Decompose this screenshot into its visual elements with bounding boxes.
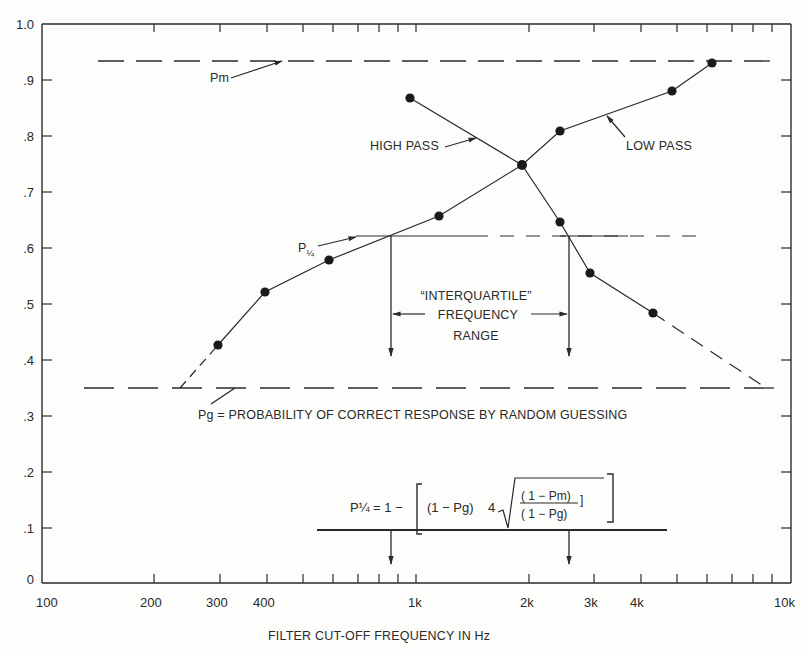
high-pass-label: HIGH PASS xyxy=(370,139,439,153)
low-pass-point xyxy=(260,287,269,296)
series-high-pass xyxy=(405,93,766,388)
low-pass-point xyxy=(434,211,443,220)
chart: 1.0 .9 .8 .7 .6 .5 .4 .3 .2 .1 0 100 200… xyxy=(0,0,806,653)
y-tick-label: .9 xyxy=(23,73,34,88)
iq-label-line1: “INTERQUARTILE” xyxy=(420,289,531,303)
pg-definition-label: Pg = PROBABILITY OF CORRECT RESPONSE BY … xyxy=(198,408,628,422)
formula-root-index: 4 xyxy=(488,500,495,515)
low-pass-extrapolation xyxy=(180,345,218,388)
x-tick-label: 300 xyxy=(206,595,228,610)
iq-label-line2: FREQUENCY xyxy=(438,308,519,322)
formula-numerator: ( 1 − Pm) xyxy=(521,489,571,503)
x-tick-labels: 100 200 300 400 1k 2k 3k 4k 10k xyxy=(36,595,795,610)
y-tick-label: .4 xyxy=(23,353,34,368)
crossover-point xyxy=(517,160,527,170)
low-pass-point xyxy=(324,255,333,264)
high-pass-point xyxy=(555,217,564,226)
x-axis-title: FILTER CUT-OFF FREQUENCY IN Hz xyxy=(268,629,490,643)
formula-factor: (1 − Pg) xyxy=(427,500,474,515)
y-tick-label: .5 xyxy=(23,297,34,312)
low-pass-point xyxy=(667,86,676,95)
x-tick-label: 10k xyxy=(774,595,795,610)
x-tick-label: 100 xyxy=(36,595,58,610)
formula-denominator: ( 1 − Pg) xyxy=(521,507,567,521)
formula-lhs: P¼ = 1 − xyxy=(350,500,403,515)
high-pass-point xyxy=(648,308,657,317)
y-tick-label: .8 xyxy=(23,129,34,144)
x-tick-label: 400 xyxy=(253,595,275,610)
low-pass-point xyxy=(213,340,222,349)
high-pass-line xyxy=(410,98,653,313)
low-pass-point xyxy=(707,58,716,67)
p-quarter-label: P¼ xyxy=(298,241,315,258)
y-tick-label: 0 xyxy=(27,572,34,587)
y-tick-labels: 1.0 .9 .8 .7 .6 .5 .4 .3 .2 .1 0 xyxy=(16,17,34,587)
x-tick-label: 2k xyxy=(520,595,534,610)
y-tick-label: .1 xyxy=(23,521,34,536)
x-tick-label: 200 xyxy=(140,595,162,610)
x-tick-label: 3k xyxy=(584,595,598,610)
formula-right-bracket xyxy=(607,474,613,522)
high-pass-extrapolation xyxy=(653,313,766,388)
high-pass-point xyxy=(585,268,594,277)
y-tick-label: .2 xyxy=(23,465,34,480)
formula: P¼ = 1 − (1 − Pg) 4 ( 1 − Pm) ( 1 − Pg) … xyxy=(350,474,613,534)
y-tick-label: .3 xyxy=(23,409,34,424)
pg-pointer-arrow xyxy=(211,388,235,404)
p-quarter-pointer-arrow xyxy=(318,237,356,246)
pm-pointer-arrow xyxy=(231,61,282,78)
low-pass-label: LOW PASS xyxy=(626,139,692,153)
low-pass-pointer-arrow xyxy=(607,116,625,137)
y-tick-label: .7 xyxy=(23,185,34,200)
chart-svg: 1.0 .9 .8 .7 .6 .5 .4 .3 .2 .1 0 100 200… xyxy=(0,0,806,653)
y-tick-label: .6 xyxy=(23,241,34,256)
x-tick-label: 1k xyxy=(408,595,422,610)
y-tick-label: 1.0 xyxy=(16,17,34,32)
series-low-pass xyxy=(180,58,717,388)
high-pass-pointer-arrow xyxy=(445,138,476,147)
x-tick-label: 4k xyxy=(630,595,644,610)
iq-label-line3: RANGE xyxy=(453,329,498,343)
interquartile-label: “INTERQUARTILE” FREQUENCY RANGE xyxy=(420,289,531,343)
low-pass-point xyxy=(555,126,564,135)
formula-inner-close: ] xyxy=(580,493,583,507)
pm-label: Pm xyxy=(210,71,229,85)
high-pass-point xyxy=(405,93,414,102)
formula-left-bracket xyxy=(417,484,422,534)
